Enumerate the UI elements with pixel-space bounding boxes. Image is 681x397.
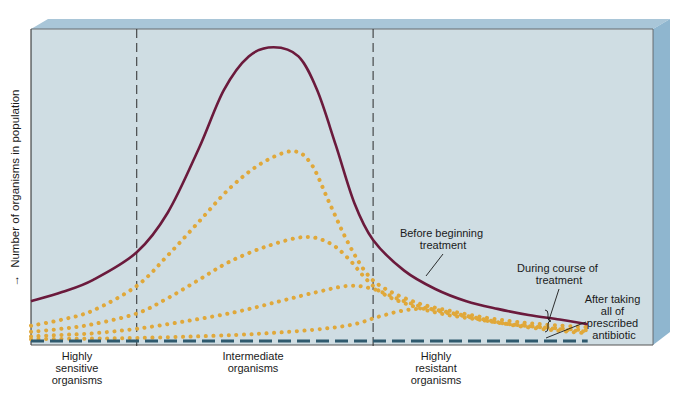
box-side-face (653, 19, 670, 345)
region-label-2: Intermediateorganisms (222, 350, 283, 374)
annotation-after-line-2: all of (601, 305, 625, 317)
svg-text:After taking all of: After taking all of prescribed antibioti… (585, 293, 644, 341)
annotation-before-line-2: treatment (420, 239, 466, 251)
annotation-after-line-1: After taking (585, 293, 641, 305)
region-label-2-line-2: organisms (228, 362, 279, 374)
annotation-during-line-1: During course of (517, 262, 599, 274)
annotation-before-line-1: Before beginning (400, 227, 483, 239)
region-label-3: Highlyresistantorganisms (411, 350, 462, 386)
region-label-3-line-1: Highly (421, 350, 452, 362)
annotation-after-line-4: antibiotic (592, 329, 636, 341)
y-axis-label-group: → Number of organisms in population (9, 89, 21, 286)
region-label-1-line-2: sensitive (56, 362, 99, 374)
region-label-1-line-1: Highly (62, 350, 93, 362)
y-axis-text: Number of organisms in population (9, 89, 21, 267)
y-axis-arrow: → (9, 275, 21, 287)
region-label-2-line-1: Intermediate (222, 350, 283, 362)
antibiotic-resistance-diagram: → Number of organisms in population High… (0, 0, 681, 397)
annotation-after-line-3: prescribed (587, 317, 638, 329)
y-axis-label: → Number of organisms in population (9, 89, 21, 286)
annotation-during-line-2: treatment (536, 274, 582, 286)
region-label-3-line-3: organisms (411, 374, 462, 386)
region-label-1-line-3: organisms (52, 374, 103, 386)
region-label-1: Highlysensitiveorganisms (52, 350, 103, 386)
region-label-3-line-2: resistant (415, 362, 457, 374)
box-top-face (31, 19, 670, 29)
plot-area (31, 29, 653, 345)
